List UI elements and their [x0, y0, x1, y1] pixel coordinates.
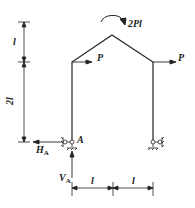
frame-members: [72, 35, 153, 142]
load-right-label: P: [178, 53, 184, 63]
dim-top-label: l: [13, 37, 16, 47]
reaction-v-label: VA: [59, 173, 71, 185]
support-left: [61, 137, 77, 150]
dim-mid-label: 2l: [5, 97, 15, 105]
moment-arrow: [101, 15, 126, 25]
dim-bottom-left-label: l: [91, 176, 94, 186]
load-left-label: P: [97, 53, 103, 63]
reaction-h-label: HA: [36, 145, 49, 157]
dim-bottom-right-label: l: [132, 176, 135, 186]
moment-label: 2Pl: [128, 19, 142, 29]
support-right: [148, 137, 164, 150]
frame-diagram: 2Pl P P A HA VA l 2l l l: [0, 0, 195, 208]
load-arrow-right: [153, 60, 176, 64]
frame-drawing: [0, 0, 195, 208]
support-a-label: A: [77, 135, 84, 145]
